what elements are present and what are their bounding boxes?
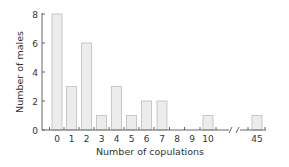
axis-break-mark (229, 127, 232, 133)
x-axis: 01234567891045 (42, 127, 266, 144)
x-tick-label: 9 (189, 134, 195, 144)
x-tick-label: 10 (202, 134, 214, 144)
bar-45 (252, 116, 262, 131)
y-axis: 02468 (32, 10, 45, 136)
bars (52, 14, 262, 130)
x-axis-title: Number of copulations (96, 146, 204, 157)
y-axis-title: Number of males (14, 31, 25, 113)
x-tick-label: 6 (144, 134, 150, 144)
bar-4 (112, 87, 122, 131)
x-tick-label: 1 (69, 134, 75, 144)
bar-10 (203, 116, 213, 131)
axis-break-mark (236, 127, 239, 133)
x-tick-label: 4 (114, 134, 120, 144)
x-tick-label: 7 (159, 134, 165, 144)
y-tick-label: 2 (32, 97, 38, 107)
x-tick-label: 0 (54, 134, 60, 144)
bar-3 (97, 116, 107, 131)
bar-6 (142, 101, 152, 130)
y-tick-label: 0 (32, 126, 38, 136)
x-tick-label: 2 (84, 134, 90, 144)
bar-chart: 02468 01234567891045 Number of copulatio… (0, 0, 289, 167)
bar-0 (52, 14, 62, 130)
bar-1 (67, 87, 77, 131)
bar-5 (127, 116, 137, 131)
y-tick-label: 4 (32, 68, 38, 78)
bar-2 (82, 43, 92, 130)
y-tick-label: 6 (32, 39, 38, 49)
x-tick-label: 8 (174, 134, 180, 144)
y-tick-label: 8 (32, 10, 38, 20)
x-tick-label: 5 (129, 134, 135, 144)
x-tick-label: 3 (99, 134, 105, 144)
x-tick-label: 45 (251, 134, 262, 144)
bar-7 (157, 101, 167, 130)
